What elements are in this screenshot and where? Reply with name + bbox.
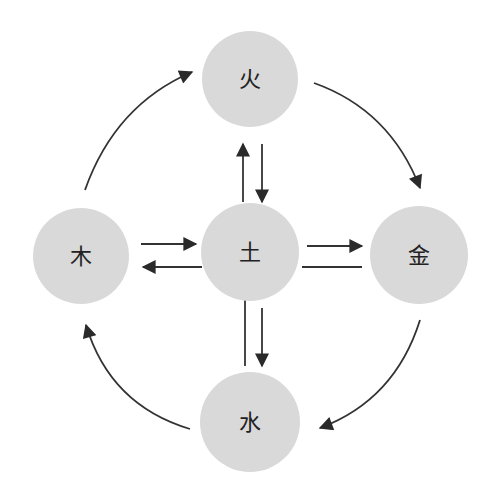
node-wood: 木	[33, 208, 129, 304]
node-earth: 土	[201, 203, 299, 301]
node-fire-label: 火	[239, 67, 261, 92]
node-fire: 火	[202, 31, 298, 127]
node-water: 水	[200, 372, 300, 472]
node-metal-label: 金	[408, 243, 430, 268]
five-elements-diagram: 火 木 土 金 水	[0, 0, 500, 496]
arrow-fire-to-metal	[314, 83, 420, 188]
node-metal: 金	[370, 206, 468, 304]
arrow-metal-to-water	[320, 320, 420, 428]
arrow-wood-to-fire	[85, 72, 192, 190]
node-wood-label: 木	[70, 244, 92, 269]
node-earth-label: 土	[239, 240, 261, 265]
node-water-label: 水	[239, 410, 261, 435]
arrow-water-to-wood	[86, 325, 190, 429]
